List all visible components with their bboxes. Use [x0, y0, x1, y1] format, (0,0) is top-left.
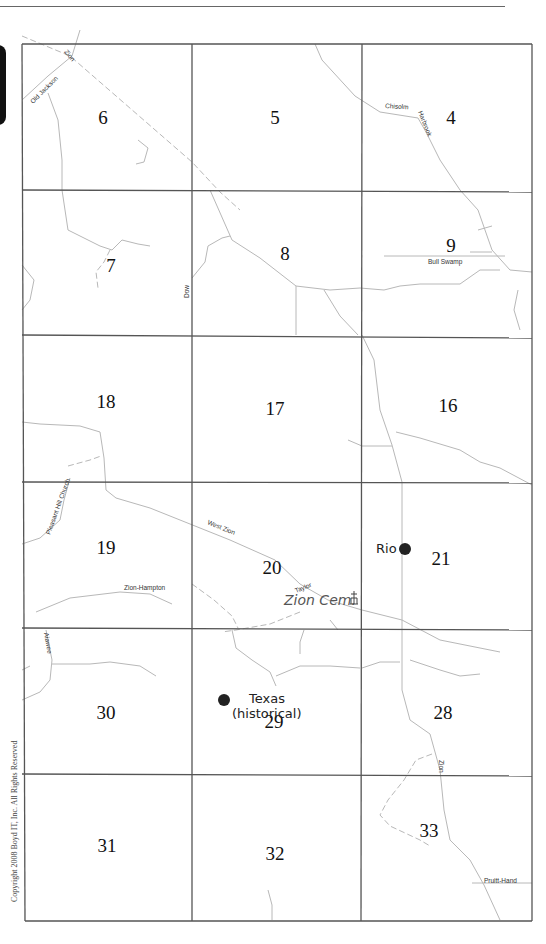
road-zion-north: [22, 36, 240, 210]
section-number-20: 20: [263, 557, 282, 578]
section-numbers: 654789181716192021302928313233: [97, 107, 458, 864]
road-north-8: [210, 190, 500, 290]
road-west-7: [22, 265, 34, 310]
place-label-rio: Rio: [376, 541, 397, 556]
section-number-4: 4: [446, 107, 456, 128]
section-number-7: 7: [106, 255, 116, 276]
grid-col-line: [361, 44, 362, 921]
road-16-west: [348, 440, 392, 446]
road-30-stub: [22, 666, 30, 670]
section-number-17: 17: [266, 398, 285, 419]
grid-row-line: [22, 774, 532, 776]
road-zion-hampton: [36, 592, 172, 612]
road-pleasant-spur: [68, 456, 101, 466]
place-texas[interactable]: Texas (historical): [218, 691, 302, 721]
place-label-texas-historical: (historical): [232, 706, 302, 721]
road-28-east: [410, 660, 480, 676]
section-number-19: 19: [97, 537, 116, 558]
place-rio[interactable]: Rio: [376, 541, 411, 556]
section-number-31: 31: [98, 835, 117, 856]
road-label: Chisolm: [385, 102, 409, 110]
section-number-5: 5: [270, 107, 280, 128]
grid-row-line: [22, 190, 532, 192]
road-dow-spur: [192, 236, 230, 278]
road-chisolm-harbrook: [315, 44, 532, 272]
road-west-zion: [22, 422, 500, 652]
road-label: Zion: [438, 760, 445, 773]
section-number-18: 18: [97, 391, 116, 412]
road-30-east: [52, 662, 156, 676]
place-label-texas: Texas: [248, 691, 285, 706]
road-29-east: [276, 666, 360, 676]
town-dot-icon: [218, 694, 230, 706]
section-number-28: 28: [434, 702, 453, 723]
road-8-south2: [324, 290, 358, 335]
section-number-9: 9: [446, 235, 456, 256]
road-label: Pleasant Hill Church: [44, 477, 71, 535]
road-label: Aiawee: [43, 632, 54, 655]
road-labels: ZionOld JacksonChisolmHarbrookBull Swamp…: [29, 48, 518, 884]
section-number-30: 30: [97, 702, 116, 723]
road-9-east: [514, 290, 520, 330]
road-29-north: [232, 630, 276, 686]
section-number-16: 16: [439, 395, 458, 416]
road-32-spur: [268, 890, 272, 920]
road-label: Harbrook: [417, 110, 434, 138]
section-grid: [22, 44, 532, 921]
road-spur-6: [136, 140, 148, 164]
road-29-spur: [300, 630, 304, 654]
road-label: Zion-Hampton: [124, 584, 166, 592]
cemetery-zion[interactable]: Zion Cem.: [283, 591, 358, 608]
section-number-32: 32: [266, 843, 285, 864]
grid-row-line: [22, 335, 532, 338]
section-number-33: 33: [420, 820, 439, 841]
roads: [22, 30, 532, 920]
road-label: Dow: [183, 285, 190, 298]
road-16-east: [396, 432, 532, 485]
grid-row-line: [22, 482, 532, 483]
road-label: Pruitt-Hand: [484, 877, 517, 884]
section-number-6: 6: [98, 107, 108, 128]
grid-row-line: [22, 628, 532, 630]
road-label: Bull Swamp: [428, 258, 463, 266]
road-29-spur2: [330, 620, 338, 630]
section-number-8: 8: [280, 243, 290, 264]
road-old-jackson: [22, 30, 80, 100]
road-20-sw: [192, 584, 238, 628]
road-label: West Zion: [207, 518, 237, 536]
town-dot-icon: [399, 543, 411, 555]
road-28-west: [362, 662, 400, 668]
cemetery-label: Zion Cem.: [283, 592, 356, 608]
section-number-21: 21: [432, 548, 451, 569]
township-map: 654789181716192021302928313233 ZionOld J…: [0, 0, 546, 944]
copyright-notice: Copyright 2008 Boyd IT, Inc. All Rights …: [10, 741, 19, 902]
